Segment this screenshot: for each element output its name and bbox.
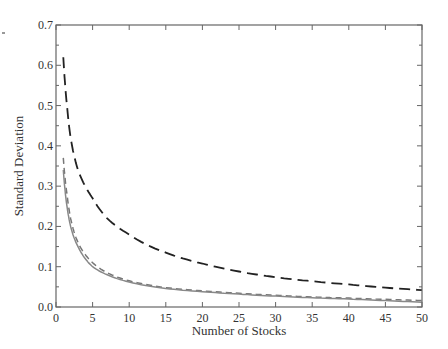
x-tick-label: 5 xyxy=(90,311,96,325)
y-tick-label: 0.1 xyxy=(38,260,53,274)
standard-deviation-chart: 051015202530354045500.00.10.20.30.40.50.… xyxy=(0,0,448,349)
x-tick-label: 35 xyxy=(306,311,318,325)
x-tick-label: 50 xyxy=(416,311,428,325)
y-tick-label: 0.5 xyxy=(38,99,53,113)
x-tick-label: 45 xyxy=(379,311,391,325)
y-tick-label: 0.0 xyxy=(38,300,53,314)
x-tick-label: 0 xyxy=(53,311,59,325)
y-tick-label: 0.7 xyxy=(38,18,53,32)
x-tick-label: 10 xyxy=(123,311,135,325)
x-tick-label: 15 xyxy=(160,311,172,325)
y-axis-title: Standard Deviation xyxy=(11,115,26,216)
y-tick-label: 0.3 xyxy=(38,179,53,193)
y-tick-label: 0.2 xyxy=(38,219,53,233)
y-tick-label: 0.6 xyxy=(38,58,53,72)
stray-mark xyxy=(2,32,5,34)
y-tick-label: 0.4 xyxy=(38,139,53,153)
x-tick-label: 40 xyxy=(343,311,355,325)
x-axis-title: Number of Stocks xyxy=(192,323,287,338)
chart-background xyxy=(0,0,448,349)
